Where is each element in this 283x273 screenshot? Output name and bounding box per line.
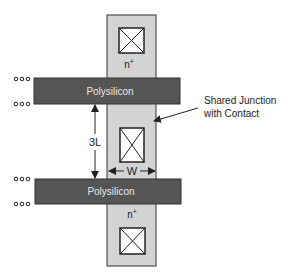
contact-bottom xyxy=(120,228,145,254)
continuation-dots-top-lower xyxy=(14,102,30,106)
annotation-line-2: with Contact xyxy=(203,108,259,119)
length-label: 3L xyxy=(89,136,101,148)
contact-shared xyxy=(120,128,144,162)
annotation-pointer-arrow xyxy=(154,108,198,121)
contact-top xyxy=(119,28,144,53)
annotation-line-1: Shared Junction xyxy=(204,95,276,106)
continuation-dots-top-upper xyxy=(14,77,30,81)
width-label: W xyxy=(127,165,138,177)
shared-junction-layout-diagram: n+ Polysilicon W 3L Polysilicon n+ xyxy=(0,0,283,273)
length-dimension: 3L xyxy=(89,105,101,178)
polysilicon-label-bottom: Polysilicon xyxy=(87,186,134,197)
continuation-dots-bottom-lower xyxy=(14,202,30,206)
continuation-dots-bottom-upper xyxy=(14,177,30,181)
polysilicon-label-top: Polysilicon xyxy=(86,86,133,97)
